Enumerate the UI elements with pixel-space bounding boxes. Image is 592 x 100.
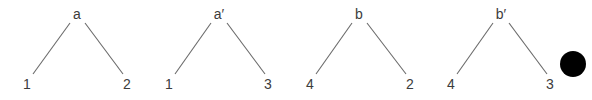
root-node-label: a′ [214,6,225,22]
tree-b-prime: b′ 4 3 [447,6,554,92]
right-leaf-label: 2 [406,76,414,92]
right-leaf-label: 3 [546,76,554,92]
left-leaf-label: 4 [447,76,455,92]
edge-right [85,23,123,74]
edge-right [227,23,265,74]
tree-a-prime: a′ 1 3 [165,6,272,92]
edge-left [457,23,493,74]
filled-circle-icon [560,51,586,77]
root-node-label: a [73,6,81,22]
right-leaf-label: 3 [264,76,272,92]
tree-diagram: a 1 2 a′ 1 3 b 4 2 b′ 4 3 [0,0,592,100]
edge-left [33,23,70,74]
root-node-label: b′ [496,6,507,22]
tree-a: a 1 2 [23,6,131,92]
tree-b: b 4 2 [306,6,414,92]
left-leaf-label: 4 [306,76,314,92]
edge-right [367,23,406,74]
right-leaf-label: 2 [123,76,131,92]
edge-right [509,23,547,74]
edge-left [316,23,352,74]
edge-left [175,23,211,74]
root-node-label: b [355,6,363,22]
left-leaf-label: 1 [165,76,173,92]
left-leaf-label: 1 [23,76,31,92]
